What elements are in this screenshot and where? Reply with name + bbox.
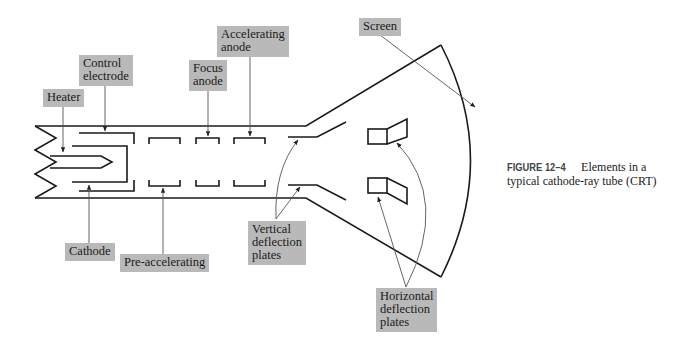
label-focus-anode: Focus anode [189, 60, 227, 91]
label-accelerating-anode: Accelerating anode [217, 26, 289, 57]
horizontal-deflection-plates [368, 119, 407, 204]
label-vertical-deflection-plates: Vertical deflection plates [248, 221, 306, 265]
label-control-electrode: Control electrode [79, 55, 133, 86]
label-screen: Screen [359, 18, 401, 36]
label-cathode: Cathode [65, 243, 115, 261]
figure-number: FIGURE 12–4 [507, 160, 566, 174]
figure-caption: FIGURE 12–4 Elements in a typical cathod… [507, 160, 693, 188]
accelerating-anode [234, 138, 265, 186]
label-heater: Heater [43, 89, 84, 107]
vertical-deflection-leader-top [276, 140, 298, 219]
label-pre-accelerating: Pre-accelerating [120, 254, 209, 272]
pre-accelerating-anode [149, 138, 180, 186]
control-electrode [72, 133, 134, 191]
caption-line-2: typical cathode-ray tube (CRT) [507, 174, 657, 188]
heater-filament [35, 126, 56, 198]
cathode-element [50, 156, 112, 168]
focus-anode [196, 138, 219, 186]
vertical-deflection-plates [288, 122, 346, 200]
screen-face [441, 45, 471, 277]
label-horizontal-deflection-plates: Horizontal deflection plates [376, 288, 437, 332]
vertical-deflection-leader-bottom [276, 187, 300, 219]
caption-line-1: Elements in a [581, 160, 646, 174]
screen-leader [380, 35, 475, 107]
